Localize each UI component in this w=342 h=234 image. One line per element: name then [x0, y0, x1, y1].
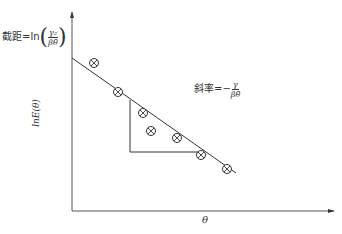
data-point-marker — [90, 59, 99, 68]
slope-annotation: 斜率=−γβθ̄ — [194, 80, 240, 99]
fit-line — [72, 58, 236, 173]
data-point-marker — [197, 151, 206, 160]
data-point-marker — [173, 134, 182, 143]
slope-prefix: 斜率=− — [194, 83, 231, 94]
data-points — [90, 59, 232, 174]
data-point-marker — [147, 127, 156, 136]
data-point-marker — [139, 109, 148, 118]
intercept-annotation: 截距=ln(γ₂βθ̄) — [2, 26, 67, 48]
intercept-denominator: βθ̄ — [48, 38, 57, 47]
y-axis-label: lnE(θ) — [31, 99, 41, 127]
slope-denominator: βθ̄ — [231, 90, 240, 99]
slope-numerator: γ — [232, 80, 239, 90]
data-point-marker — [223, 165, 232, 174]
intercept-prefix: 截距=ln — [2, 31, 40, 42]
x-axis-label: θ — [202, 214, 208, 225]
slope-triangle — [130, 100, 199, 152]
intercept-numerator: γ₂ — [48, 28, 58, 38]
data-point-marker — [114, 88, 123, 97]
